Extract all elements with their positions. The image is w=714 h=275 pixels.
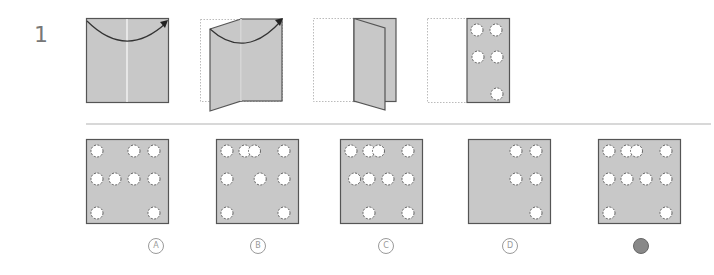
hole bbox=[660, 207, 672, 219]
hole bbox=[349, 173, 361, 185]
punched-hole bbox=[490, 24, 502, 36]
step-1-diagram bbox=[86, 18, 176, 108]
step-4-diagram bbox=[427, 18, 517, 108]
hole bbox=[510, 145, 522, 157]
option-d-radio[interactable]: D bbox=[502, 238, 518, 254]
option-c-radio[interactable]: C bbox=[378, 238, 394, 254]
step-3-diagram bbox=[313, 18, 403, 113]
hole bbox=[402, 207, 414, 219]
option-c-diagram[interactable] bbox=[340, 139, 424, 225]
hole bbox=[221, 207, 233, 219]
hole bbox=[510, 173, 522, 185]
hole bbox=[278, 173, 290, 185]
hole bbox=[402, 173, 414, 185]
option-d-diagram[interactable] bbox=[468, 139, 552, 225]
hole bbox=[278, 207, 290, 219]
hole bbox=[221, 173, 233, 185]
hole bbox=[363, 173, 375, 185]
hole bbox=[660, 173, 672, 185]
hole bbox=[221, 145, 233, 157]
hole bbox=[363, 207, 375, 219]
hole bbox=[345, 145, 357, 157]
hole bbox=[91, 145, 103, 157]
hole bbox=[249, 145, 261, 157]
option-e-radio-selected[interactable] bbox=[633, 238, 649, 254]
hole bbox=[603, 145, 615, 157]
hole bbox=[603, 173, 615, 185]
option-a-diagram[interactable] bbox=[86, 139, 170, 225]
step-2-diagram bbox=[200, 15, 300, 115]
hole bbox=[530, 145, 542, 157]
hole bbox=[402, 145, 414, 157]
hole bbox=[530, 173, 542, 185]
hole bbox=[148, 207, 160, 219]
option-b-diagram[interactable] bbox=[216, 139, 300, 225]
question-number: 1 bbox=[34, 22, 48, 47]
hole bbox=[91, 173, 103, 185]
hole bbox=[148, 145, 160, 157]
option-e-diagram[interactable] bbox=[598, 139, 682, 225]
punched-hole bbox=[491, 88, 503, 100]
hole bbox=[530, 207, 542, 219]
hole bbox=[603, 207, 615, 219]
hole bbox=[640, 173, 652, 185]
hole bbox=[254, 173, 266, 185]
hole bbox=[373, 145, 385, 157]
hole bbox=[109, 173, 121, 185]
option-a-radio[interactable]: A bbox=[148, 238, 164, 254]
hole bbox=[91, 207, 103, 219]
hole bbox=[128, 173, 140, 185]
hole bbox=[382, 173, 394, 185]
divider bbox=[86, 123, 711, 125]
hole bbox=[278, 145, 290, 157]
hole bbox=[148, 173, 160, 185]
hole bbox=[621, 173, 633, 185]
hole bbox=[128, 145, 140, 157]
punched-hole bbox=[472, 51, 484, 63]
hole bbox=[660, 145, 672, 157]
option-b-radio[interactable]: B bbox=[250, 238, 266, 254]
punched-hole bbox=[471, 24, 483, 36]
hole bbox=[631, 145, 643, 157]
punched-hole bbox=[491, 51, 503, 63]
